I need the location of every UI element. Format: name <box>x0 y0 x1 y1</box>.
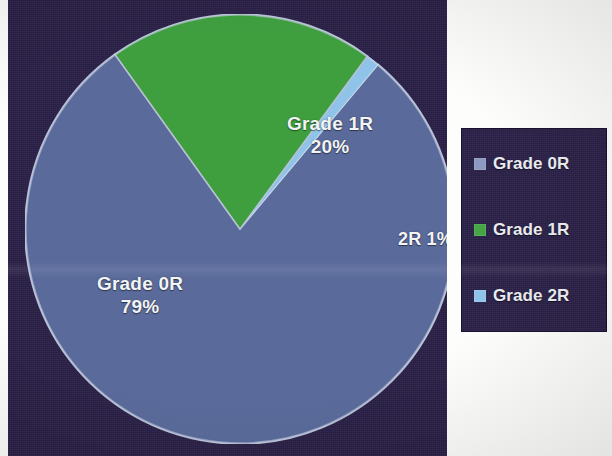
legend-label-grade-0r: Grade 0R <box>493 154 569 174</box>
legend-item-grade-0r[interactable]: Grade 0R <box>474 154 569 174</box>
legend-label-grade-1r: Grade 1R <box>493 220 569 240</box>
legend-swatch-icon-grade-1r <box>474 224 486 236</box>
screenshot-root: Grade 1R 20% Grade 0R 79% 2R 1% Grade 0R… <box>0 0 612 456</box>
legend-swatch-icon-grade-2r <box>474 290 486 302</box>
pie-label-grade-1r: Grade 1R 20% <box>287 112 373 158</box>
legend-item-grade-1r[interactable]: Grade 1R <box>474 220 569 240</box>
legend-item-list: Grade 0R Grade 1R Grade 2R <box>462 129 606 331</box>
pie-label-grade-0r-name: Grade 0R <box>97 272 183 295</box>
pie-chart-svg <box>25 14 447 444</box>
pie-label-grade-1r-pct: 20% <box>287 135 373 158</box>
legend-item-grade-2r[interactable]: Grade 2R <box>474 286 569 306</box>
legend-label-grade-2r: Grade 2R <box>493 286 569 306</box>
pie-label-grade-2r-text: 2R 1% <box>398 229 447 251</box>
pie-chart: Grade 1R 20% Grade 0R 79% 2R 1% <box>25 14 447 444</box>
pie-label-grade-1r-name: Grade 1R <box>287 112 373 135</box>
chart-legend: Grade 0R Grade 1R Grade 2R <box>461 128 607 332</box>
pie-label-grade-0r-pct: 79% <box>97 295 183 318</box>
pie-label-grade-2r: 2R 1% <box>398 229 447 251</box>
chart-panel: Grade 1R 20% Grade 0R 79% 2R 1% <box>8 0 447 456</box>
pie-label-grade-0r: Grade 0R 79% <box>97 272 183 318</box>
legend-swatch-icon-grade-0r <box>474 158 486 170</box>
